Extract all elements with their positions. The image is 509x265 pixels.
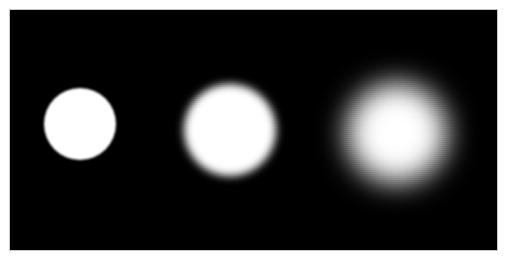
disc-heavy-blur	[347, 83, 447, 183]
figure-root	[0, 0, 509, 265]
disc-sharp	[44, 88, 116, 160]
image-panel	[10, 10, 497, 250]
disc-medium-blur	[184, 84, 276, 176]
